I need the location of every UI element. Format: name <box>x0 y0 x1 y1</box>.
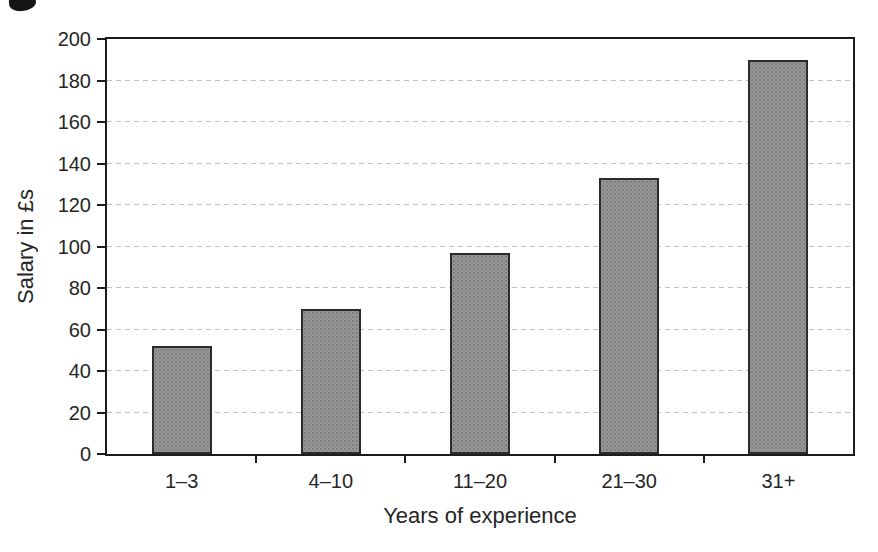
x-tick-mark-2 <box>404 454 406 463</box>
gridline-120 <box>107 204 853 205</box>
x-tick-mark-4 <box>703 454 705 463</box>
scan-artifact-mark <box>8 0 36 12</box>
x-tick-label-1: 1–3 <box>122 470 242 492</box>
x-tick-label-5: 31+ <box>718 470 838 492</box>
y-tick-label-20: 20 <box>31 402 91 424</box>
x-tick-label-2: 4–10 <box>271 470 391 492</box>
x-tick-label-4: 21–30 <box>569 470 689 492</box>
bar-4-10 <box>301 309 361 454</box>
y-tick-label-140: 140 <box>31 153 91 175</box>
y-tick-label-0: 0 <box>31 443 91 465</box>
y-tick-mark-160 <box>97 121 105 123</box>
y-tick-mark-100 <box>97 246 105 248</box>
bar-1-3 <box>152 346 212 454</box>
x-tick-label-3: 11–20 <box>420 470 540 492</box>
y-tick-mark-140 <box>97 163 105 165</box>
gridline-180 <box>107 80 853 81</box>
y-tick-label-40: 40 <box>31 360 91 382</box>
y-tick-label-60: 60 <box>31 319 91 341</box>
y-tick-label-180: 180 <box>31 70 91 92</box>
bar-11-20 <box>450 253 510 454</box>
gridline-140 <box>107 163 853 164</box>
y-tick-label-120: 120 <box>31 194 91 216</box>
y-tick-mark-180 <box>97 80 105 82</box>
y-tick-label-200: 200 <box>31 28 91 50</box>
y-tick-mark-200 <box>97 38 105 40</box>
y-tick-mark-0 <box>97 453 105 455</box>
y-tick-mark-20 <box>97 412 105 414</box>
x-axis-title: Years of experience <box>105 503 855 529</box>
x-tick-mark-1 <box>255 454 257 463</box>
y-tick-label-160: 160 <box>31 111 91 133</box>
gridline-160 <box>107 121 853 122</box>
gridline-100 <box>107 246 853 247</box>
bar-21-30 <box>599 178 659 454</box>
x-tick-mark-3 <box>554 454 556 463</box>
bar-chart-figure: Salary in £s 020406080100120140160180200… <box>0 0 878 552</box>
bar-31+ <box>748 60 808 454</box>
y-tick-label-100: 100 <box>31 236 91 258</box>
y-tick-mark-60 <box>97 329 105 331</box>
y-tick-mark-40 <box>97 370 105 372</box>
plot-area: 0204060801001201401601802001–34–1011–202… <box>105 37 855 456</box>
y-tick-mark-120 <box>97 204 105 206</box>
y-tick-label-80: 80 <box>31 277 91 299</box>
y-tick-mark-80 <box>97 287 105 289</box>
